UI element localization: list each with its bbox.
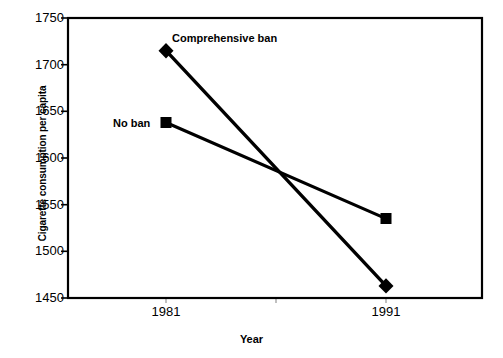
y-tick-label-1550: 1550 [22,198,64,211]
x-axis-title: Year [0,333,503,345]
x-tick-label-1991: 1991 [351,305,421,318]
y-axis-tick-labels: 1750 1700 1650 1600 1550 1500 1450 [18,0,64,358]
series-no-ban-point-1981 [161,117,172,128]
y-tick-label-1700: 1700 [22,58,64,71]
series-label-comprehensive-ban: Comprehensive ban [172,32,277,44]
y-tick-label-1600: 1600 [22,151,64,164]
y-tick-label-1650: 1650 [22,104,64,117]
y-tick-label-1500: 1500 [22,244,64,257]
x-tick-label-1981: 1981 [131,305,201,318]
line-chart-plot [0,0,503,358]
series-no-ban-point-1991 [381,213,392,224]
y-tick-label-1450: 1450 [22,291,64,304]
y-tick-label-1750: 1750 [22,11,64,24]
series-label-no-ban: No ban [113,117,150,129]
chart-figure: Cigarette consumption per capita 1750 17… [0,0,503,358]
plot-frame [68,18,482,298]
